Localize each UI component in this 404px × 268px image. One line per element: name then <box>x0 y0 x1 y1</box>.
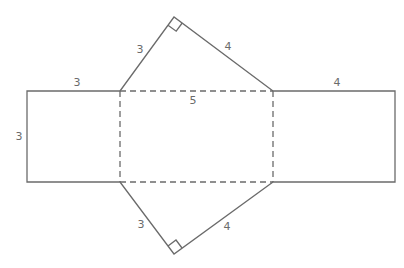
left-square <box>27 91 120 182</box>
label-bottom-triangle-right: 4 <box>224 221 231 232</box>
label-left-square-side: 3 <box>16 131 23 142</box>
bottom-right-angle-mark <box>168 240 182 248</box>
label-left-square-top: 3 <box>74 77 81 88</box>
label-top-triangle-right: 4 <box>225 41 232 52</box>
label-right-rect-top: 4 <box>334 77 341 88</box>
label-middle-rect-top: 5 <box>190 95 197 106</box>
middle-rectangle-fold-lines <box>120 91 273 182</box>
label-bottom-triangle-left: 3 <box>138 219 145 230</box>
right-rectangle <box>273 91 395 182</box>
top-right-angle-mark <box>168 23 182 31</box>
prism-net-diagram <box>0 0 404 268</box>
label-top-triangle-left: 3 <box>137 44 144 55</box>
